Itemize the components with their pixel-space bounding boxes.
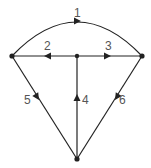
node-left: [9, 53, 14, 58]
diagram-canvas: 1 2 3 4 5 6: [0, 0, 151, 168]
node-bottom: [74, 156, 79, 161]
edge-label-3: 3: [105, 39, 112, 53]
graph-diagram: 1 2 3 4 5 6: [0, 0, 151, 168]
node-center: [75, 54, 79, 58]
edge-label-6: 6: [119, 93, 126, 107]
arrow-3-icon: [104, 53, 111, 60]
edge-5: [12, 56, 77, 159]
arrow-2-icon: [44, 53, 51, 60]
edge-label-4: 4: [82, 93, 89, 107]
edge-label-5: 5: [24, 93, 31, 107]
node-right: [139, 53, 144, 58]
edge-6: [77, 56, 142, 159]
arrow-4-icon: [74, 94, 81, 101]
edge-1: [12, 22, 142, 56]
edge-label-2: 2: [44, 39, 51, 53]
edge-label-1: 1: [74, 6, 81, 20]
